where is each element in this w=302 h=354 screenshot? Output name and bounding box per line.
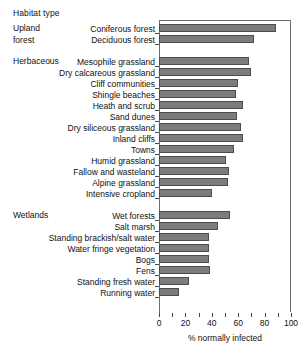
x-axis-tick	[278, 313, 279, 317]
category-tick	[155, 132, 159, 133]
x-axis-tick	[225, 313, 226, 317]
bar	[159, 222, 218, 230]
category-tick	[155, 121, 159, 122]
category-tick	[155, 44, 159, 45]
category-tick	[155, 88, 159, 89]
category-tick	[155, 176, 159, 177]
category-tick	[155, 253, 159, 254]
bar	[159, 24, 276, 32]
bar	[159, 57, 249, 65]
category-tick	[155, 275, 159, 276]
x-axis-tick	[265, 313, 266, 317]
category-label: Running water	[0, 288, 158, 298]
x-axis-tick	[199, 313, 200, 317]
bar	[159, 123, 241, 131]
category-tick	[155, 110, 159, 111]
category-label: Heath and scrub	[0, 101, 158, 111]
bar	[159, 233, 209, 241]
category-label: Standing brackish/salt water	[0, 233, 158, 243]
x-axis-tick-label: 40	[207, 318, 216, 328]
group-label: Wetlands	[13, 210, 48, 220]
x-axis-tick	[172, 313, 173, 317]
x-axis-tick-label: 0	[157, 318, 162, 328]
category-label: Standing fresh water	[0, 277, 158, 287]
group-label-line: Herbaceous	[13, 56, 59, 66]
bar	[159, 211, 230, 219]
category-label: Bogs	[0, 255, 158, 265]
bar	[159, 178, 228, 186]
bar	[159, 112, 237, 120]
category-label: Salt marsh	[0, 222, 158, 232]
category-tick	[155, 33, 159, 34]
category-label: Shingle beaches	[0, 90, 158, 100]
category-tick	[155, 242, 159, 243]
category-label: Water fringe vegetation	[0, 244, 158, 254]
bar	[159, 90, 236, 98]
x-axis-title: % normally infected	[159, 333, 291, 343]
bar	[159, 145, 234, 153]
bar	[159, 288, 179, 296]
x-axis-tick	[212, 313, 213, 317]
category-tick	[155, 198, 159, 199]
bar	[159, 101, 243, 109]
habitat-infection-bar-chart: Habitat type Coniferous forestDeciduous …	[0, 0, 302, 354]
category-tick	[155, 187, 159, 188]
bar	[159, 244, 209, 252]
category-label: Humid grassland	[0, 156, 158, 166]
bar	[159, 189, 212, 197]
category-tick	[155, 286, 159, 287]
category-label: Towns	[0, 145, 158, 155]
group-label-line: Upland	[13, 23, 40, 35]
bar	[159, 156, 226, 164]
category-label: Dry siliceous grassland	[0, 123, 158, 133]
category-label: Alpine grassland	[0, 178, 158, 188]
group-label: Herbaceous	[13, 56, 59, 66]
x-axis-tick	[159, 313, 160, 317]
group-label-line: Wetlands	[13, 210, 48, 220]
x-axis-tick-label: 80	[260, 318, 269, 328]
bar	[159, 134, 243, 142]
category-label: Intensive cropland	[0, 189, 158, 199]
category-tick	[155, 99, 159, 100]
category-tick	[155, 165, 159, 166]
category-tick	[155, 264, 159, 265]
category-label: Fallow and wasteland	[0, 167, 158, 177]
x-axis-tick-label: 20	[181, 318, 190, 328]
bar	[159, 79, 238, 87]
group-label: Uplandforest	[13, 23, 40, 46]
group-label-line: forest	[13, 35, 40, 47]
category-label: Dry calcareous grassland	[0, 68, 158, 78]
x-axis-tick	[238, 313, 239, 317]
category-label: Sand dunes	[0, 112, 158, 122]
category-tick	[155, 77, 159, 78]
x-axis-tick	[291, 313, 292, 317]
category-label-column: Coniferous forestDeciduous forestMesophi…	[0, 0, 158, 354]
category-label: Cliff communities	[0, 79, 158, 89]
category-tick	[155, 143, 159, 144]
bar	[159, 277, 189, 285]
x-axis-tick	[185, 313, 186, 317]
category-tick	[155, 231, 159, 232]
category-tick	[155, 66, 159, 67]
category-tick	[155, 297, 159, 298]
bar	[159, 35, 254, 43]
bar	[159, 266, 210, 274]
x-axis-tick-label: 60	[233, 318, 242, 328]
bar	[159, 68, 251, 76]
category-tick	[155, 154, 159, 155]
category-tick	[155, 220, 159, 221]
x-axis-tick-label: 100	[284, 318, 298, 328]
bar	[159, 167, 229, 175]
category-label: Fens	[0, 266, 158, 276]
category-label: Inland cliffs	[0, 134, 158, 144]
bar	[159, 255, 209, 263]
x-axis-tick	[251, 313, 252, 317]
